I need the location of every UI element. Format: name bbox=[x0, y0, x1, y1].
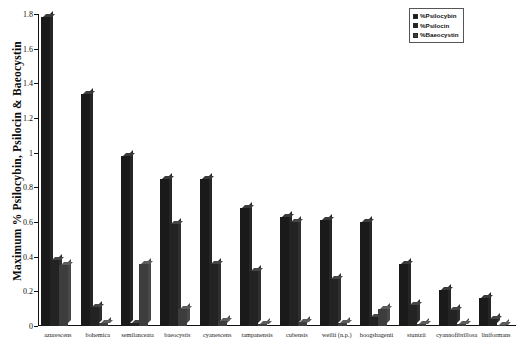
y-tick-label: 0.4 bbox=[4, 252, 38, 261]
y-tick-label: 0.8 bbox=[4, 183, 38, 192]
bar-face bbox=[329, 279, 338, 326]
bar-baeocystin bbox=[258, 14, 267, 326]
bar-face bbox=[298, 322, 307, 326]
bar-groups bbox=[38, 14, 516, 326]
bar-chart: Maximum % Psilocybin, Psilocin & Baeocys… bbox=[0, 0, 520, 345]
bar-baeocystin bbox=[378, 14, 387, 326]
bar-face bbox=[378, 309, 387, 326]
y-tick-label: 0 bbox=[4, 322, 38, 331]
bar-baeocystin bbox=[457, 14, 466, 326]
bar-psilocin bbox=[408, 14, 417, 326]
bar-top bbox=[459, 321, 471, 324]
bar-psilocin bbox=[90, 14, 99, 326]
bar-psilocybin bbox=[479, 14, 488, 326]
bar-psilocin bbox=[249, 14, 258, 326]
x-tick-label: tampanensis bbox=[237, 329, 277, 343]
legend-item: %Psilocybin bbox=[413, 12, 459, 21]
bar-top bbox=[419, 321, 431, 324]
bar-group bbox=[78, 14, 118, 326]
bar-group bbox=[237, 14, 277, 326]
bar-psilocybin bbox=[240, 14, 249, 326]
x-tick-label: cyannofibrillosa bbox=[436, 329, 476, 343]
bar-top bbox=[340, 320, 352, 323]
bar-psilocin bbox=[50, 14, 59, 326]
bar-face bbox=[439, 290, 448, 326]
bar-face bbox=[209, 264, 218, 326]
bar-face bbox=[41, 17, 50, 326]
bar-psilocybin bbox=[399, 14, 408, 326]
bar-face bbox=[121, 156, 130, 326]
bar-psilocybin bbox=[160, 14, 169, 326]
bar-group bbox=[476, 14, 516, 326]
bar-group bbox=[396, 14, 436, 326]
bar-psilocybin bbox=[320, 14, 329, 326]
bar-group bbox=[38, 14, 78, 326]
bar-psilocin bbox=[169, 14, 178, 326]
bar-psilocybin bbox=[360, 14, 369, 326]
bar-psilocin bbox=[448, 14, 457, 326]
bar-baeocystin bbox=[417, 14, 426, 326]
bar-face bbox=[280, 217, 289, 326]
bar-side bbox=[148, 258, 151, 323]
legend-item: %Baeocystin bbox=[413, 31, 459, 40]
bar-top bbox=[220, 318, 232, 321]
bar-baeocystin bbox=[178, 14, 187, 326]
bar-face bbox=[50, 260, 59, 326]
bar-face bbox=[139, 264, 148, 326]
bar-psilocin bbox=[329, 14, 338, 326]
bar-group bbox=[317, 14, 357, 326]
bar-face bbox=[448, 310, 457, 326]
bar-group bbox=[197, 14, 237, 326]
x-tick-label: hoogshagenii bbox=[357, 329, 397, 343]
bar-top bbox=[300, 319, 312, 322]
bar-group bbox=[436, 14, 476, 326]
chart-legend: %Psilocybin%Psilocin%Baeocystin bbox=[409, 8, 464, 43]
plot-area: 1.81.61.41.210.80.60.40.20 bbox=[38, 14, 516, 326]
x-tick-label: semilanceata bbox=[118, 329, 158, 343]
y-tick-label: 1.8 bbox=[4, 10, 38, 19]
legend-label: %Baeocystin bbox=[420, 31, 459, 39]
bar-psilocin bbox=[209, 14, 218, 326]
x-tick-label: baeocystis bbox=[157, 329, 197, 343]
x-tick-label: liniformans bbox=[476, 329, 516, 343]
legend-swatch-icon bbox=[413, 33, 418, 38]
bar-face bbox=[417, 324, 426, 326]
bar-group bbox=[277, 14, 317, 326]
bar-face bbox=[258, 324, 267, 326]
bar-face bbox=[90, 307, 99, 326]
bar-baeocystin bbox=[218, 14, 227, 326]
bar-top bbox=[499, 322, 511, 325]
x-tick-label: weilii (n.p.) bbox=[317, 329, 357, 343]
legend-label: %Psilocin bbox=[420, 22, 449, 30]
x-tick-label: cyanescens bbox=[197, 329, 237, 343]
x-tick-label: stuntzii bbox=[396, 329, 436, 343]
bar-baeocystin bbox=[497, 14, 506, 326]
bar-psilocybin bbox=[200, 14, 209, 326]
bar-baeocystin bbox=[99, 14, 108, 326]
y-tick-label: 1.6 bbox=[4, 44, 38, 53]
bar-top bbox=[260, 321, 272, 324]
bar-face bbox=[320, 220, 329, 326]
bar-top bbox=[101, 320, 113, 323]
bar-psilocybin bbox=[121, 14, 130, 326]
bar-face bbox=[59, 265, 68, 326]
y-tick-label: 0.6 bbox=[4, 218, 38, 227]
legend-swatch-icon bbox=[413, 14, 418, 19]
bar-face bbox=[338, 323, 347, 326]
bar-face bbox=[200, 179, 209, 326]
x-tick-label: bohemica bbox=[78, 329, 118, 343]
bar-psilocin bbox=[488, 14, 497, 326]
y-tick-label: 1.2 bbox=[4, 114, 38, 123]
bar-psilocybin bbox=[439, 14, 448, 326]
y-tick-label: 1.4 bbox=[4, 79, 38, 88]
y-tick-label: 1 bbox=[4, 148, 38, 157]
bar-group bbox=[118, 14, 158, 326]
bar-face bbox=[81, 94, 90, 326]
bar-side bbox=[68, 259, 71, 323]
bar-psilocybin bbox=[280, 14, 289, 326]
bar-top bbox=[180, 306, 192, 309]
legend-label: %Psilocybin bbox=[420, 12, 456, 20]
bar-face bbox=[360, 222, 369, 326]
bar-face bbox=[457, 324, 466, 326]
bar-face bbox=[130, 323, 139, 326]
